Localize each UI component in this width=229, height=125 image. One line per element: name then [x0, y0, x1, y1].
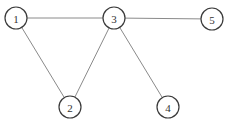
edge-3-4 [114, 18, 168, 107]
node-2: 2 [59, 96, 81, 118]
node-label: 1 [13, 13, 19, 25]
edge-1-2 [16, 18, 70, 107]
nodes-group: 12345 [5, 7, 223, 118]
node-1: 1 [5, 7, 27, 29]
edge-2-3 [70, 18, 114, 107]
node-4: 4 [157, 96, 179, 118]
edges-group [16, 18, 212, 107]
node-5: 5 [201, 8, 223, 30]
node-label: 3 [111, 13, 117, 25]
edge-3-5 [114, 18, 212, 19]
node-label: 5 [209, 14, 215, 26]
node-3: 3 [103, 7, 125, 29]
graph-diagram: 12345 [0, 0, 229, 125]
node-label: 4 [165, 102, 171, 114]
node-label: 2 [67, 102, 73, 114]
